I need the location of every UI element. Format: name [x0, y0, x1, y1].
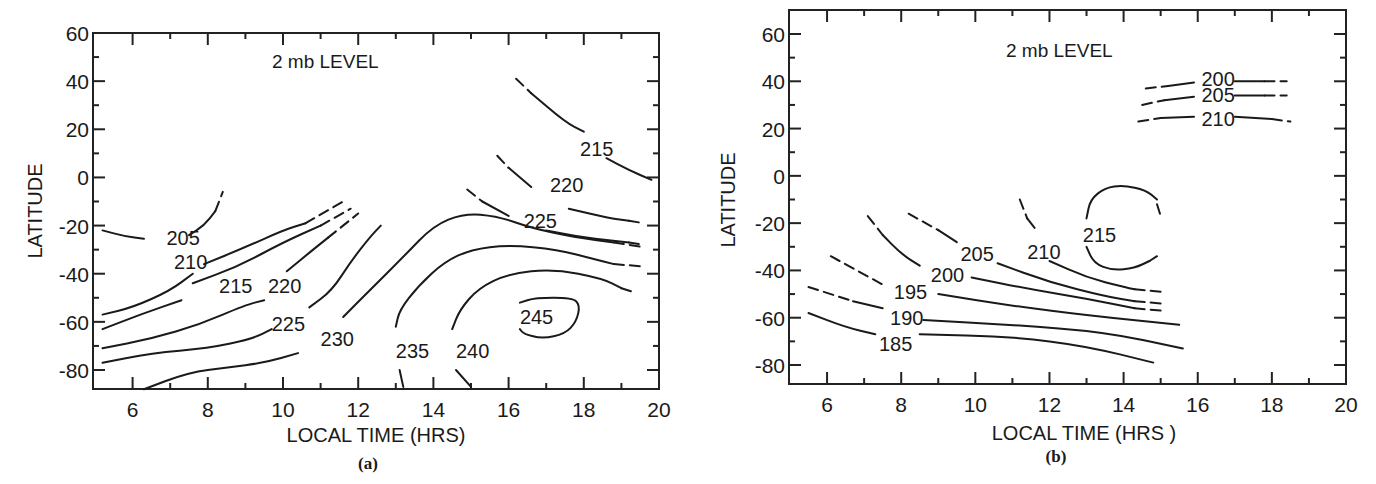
x-tick-label: 12	[1038, 393, 1061, 416]
chart-panel-b: 681012141618206040200-20-40-60-80 200205…	[717, 10, 1358, 466]
x-tick-label: 20	[1334, 393, 1357, 416]
contour-label-220: 220	[550, 174, 583, 196]
chart-panel-a: 681012141618206040200-20-40-60-80 205210…	[24, 22, 671, 473]
contour-line-235	[614, 264, 644, 266]
contour-line-200	[1168, 83, 1194, 87]
x-axis-title-b: LOCAL TIME (HRS )	[992, 422, 1176, 444]
x-tick-label: 6	[821, 393, 833, 416]
y-tick-label: -60	[59, 311, 89, 334]
contour-line-215	[103, 300, 182, 329]
x-tick-label: 12	[347, 398, 370, 421]
contour-line-220	[509, 168, 532, 187]
contour-line-225	[482, 202, 508, 216]
contour-line-240	[621, 288, 636, 293]
x-axis-title-a: LOCAL TIME (HRS)	[287, 424, 466, 446]
contour-line-210	[1027, 218, 1034, 228]
contour-line-205	[909, 214, 939, 231]
x-tick-label: 16	[1186, 393, 1209, 416]
contour-line-210	[1138, 118, 1160, 122]
contour-label-210: 210	[1027, 241, 1060, 263]
x-tick-label: 16	[497, 398, 520, 421]
contour-line-240	[456, 370, 471, 387]
axis-ticks-b: 681012141618206040200-20-40-60-80	[755, 10, 1358, 416]
contour-line-205	[1135, 301, 1161, 303]
y-tick-label: 0	[773, 165, 785, 188]
panel-title-a: 2 mb LEVEL	[272, 51, 379, 72]
contour-line-200	[883, 235, 920, 266]
x-tick-label: 14	[422, 398, 446, 421]
contour-label-205: 205	[166, 227, 199, 249]
contour-line-210	[1235, 117, 1272, 119]
x-tick-label: 18	[572, 398, 595, 421]
contour-line-210	[306, 202, 344, 224]
contour-line-205	[1142, 100, 1164, 105]
contour-line-225	[546, 230, 629, 242]
plot-frame-a	[93, 33, 659, 389]
contour-label-205: 205	[961, 243, 994, 265]
contour-line-220	[287, 238, 328, 272]
y-axis-title-b: LATITUDE	[717, 152, 739, 247]
x-tick-label: 14	[1112, 393, 1136, 416]
contour-label-190: 190	[890, 307, 923, 329]
contour-label-210: 210	[174, 251, 207, 273]
caption-b: (b)	[1046, 447, 1067, 466]
contour-line-210	[1272, 119, 1291, 121]
y-tick-label: 20	[762, 118, 785, 141]
contour-line-225	[103, 329, 272, 363]
x-tick-label: 8	[895, 393, 907, 416]
contour-line-205	[215, 192, 223, 211]
contour-label-225: 225	[524, 210, 557, 232]
y-tick-label: -40	[59, 263, 89, 286]
figure-canvas: 681012141618206040200-20-40-60-80 205210…	[0, 0, 1376, 484]
contour-line-215	[1087, 186, 1158, 218]
contour-line-190	[853, 301, 883, 308]
y-tick-label: 40	[66, 70, 89, 93]
contour-line-195	[831, 256, 883, 284]
y-tick-label: 40	[762, 70, 785, 93]
contour-line-205	[938, 230, 957, 242]
contour-line-215	[1087, 247, 1150, 270]
y-tick-label: -20	[755, 212, 785, 235]
contour-line-215	[516, 79, 531, 94]
contour-label-205: 205	[1201, 84, 1234, 106]
y-tick-label: -80	[59, 359, 89, 382]
y-tick-label: -60	[755, 307, 785, 330]
contour-line-215	[1150, 256, 1158, 261]
y-tick-label: 60	[66, 22, 89, 45]
y-axis-title-a: LATITUDE	[24, 163, 46, 258]
contour-line-210	[1020, 200, 1027, 219]
contour-label-245: 245	[520, 306, 553, 328]
contour-label-200: 200	[931, 264, 964, 286]
caption-a: (a)	[358, 454, 378, 473]
x-tick-label: 10	[964, 393, 987, 416]
contour-line-185	[920, 334, 1154, 362]
contour-line-215	[193, 226, 321, 284]
contour-line-210	[103, 274, 193, 315]
contour-line-230	[343, 215, 614, 317]
contour-label-225: 225	[272, 313, 305, 335]
contour-line-215	[1157, 204, 1161, 216]
axis-ticks-a: 681012141618206040200-20-40-60-80	[59, 22, 671, 421]
y-tick-label: 60	[762, 23, 785, 46]
contour-label-195: 195	[894, 281, 927, 303]
panel-title-b: 2 mb LEVEL	[1006, 40, 1113, 61]
contour-line-185	[809, 313, 876, 334]
contour-label-230: 230	[321, 328, 354, 350]
contour-line-190	[923, 320, 1183, 348]
y-tick-label: -20	[59, 215, 89, 238]
contour-line-205	[103, 230, 144, 238]
contour-label-210: 210	[1201, 108, 1234, 130]
contour-label-240: 240	[456, 340, 489, 362]
contour-line-220	[328, 214, 358, 238]
contour-label-235: 235	[396, 340, 429, 362]
contour-line-215	[606, 158, 651, 180]
contour-line-200	[1135, 308, 1161, 310]
contour-line-235	[396, 246, 614, 327]
x-tick-label: 6	[127, 398, 139, 421]
contour-label-215: 215	[1083, 224, 1116, 246]
contour-line-235	[400, 370, 404, 387]
contour-line-200	[868, 216, 883, 235]
contour-line-230	[144, 353, 298, 389]
y-tick-label: -40	[755, 259, 785, 282]
contour-label-220: 220	[268, 275, 301, 297]
